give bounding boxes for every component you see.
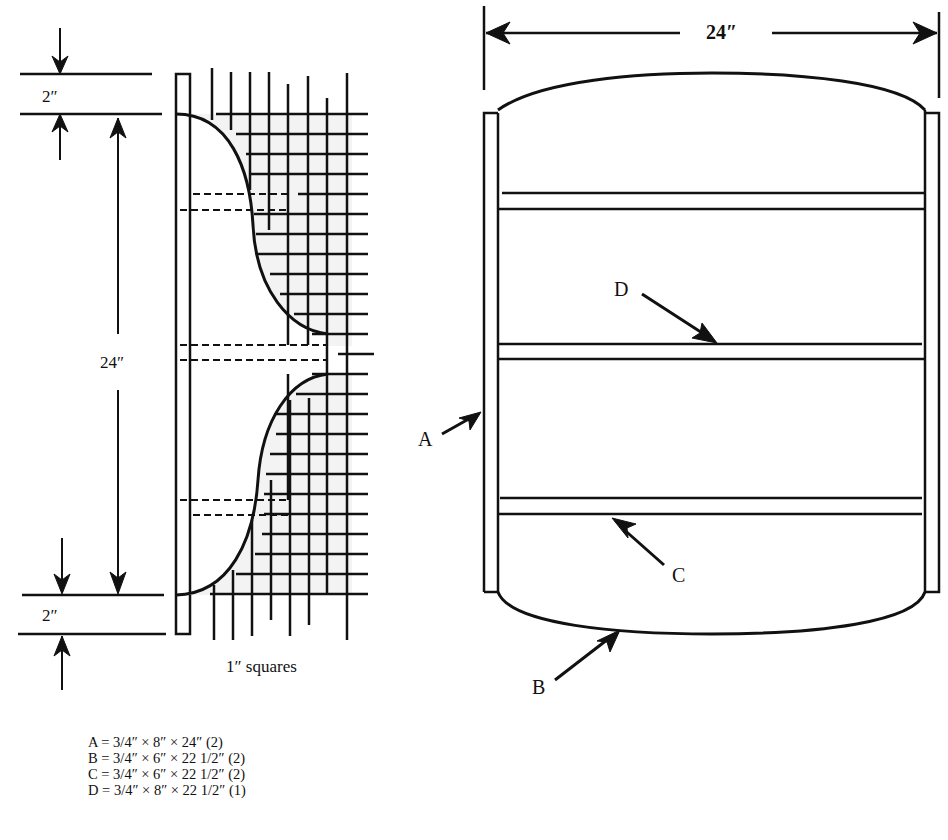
arrow-d-icon [692,323,717,343]
side-profile [18,28,374,690]
parts-list-item-b: B = 3/4″ × 6″ × 22 1/2″ (2) [88,750,246,766]
grid-caption: 1″ squares [226,657,297,676]
diagram-canvas: 2″ 24″ 2″ 1″ squares [0,0,948,840]
height-label: 24″ [100,353,124,372]
parts-list-item-d: D = 3/4″ × 8″ × 22 1/2″ (1) [88,782,246,798]
parts-list: A = 3/4″ × 8″ × 24″ (2) B = 3/4″ × 6″ × … [88,734,246,798]
top-margin-label: 2″ [42,87,58,106]
callout-a: A [418,428,433,450]
callout-c: C [672,564,685,586]
front-view [442,6,939,680]
callout-b: B [532,676,545,698]
parts-list-item-a: A = 3/4″ × 8″ × 24″ (2) [88,734,246,750]
arrow-b-icon [597,630,620,652]
parts-list-item-c: C = 3/4″ × 6″ × 22 1/2″ (2) [88,766,246,782]
bottom-margin-label: 2″ [42,606,58,625]
width-label: 24″ [706,21,737,43]
callout-d: D [614,278,628,300]
